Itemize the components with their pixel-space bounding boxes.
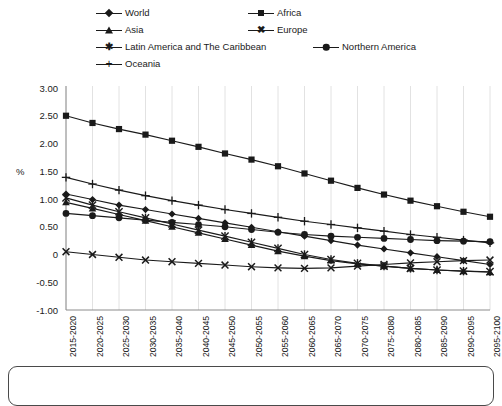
x-axis-tick-12: 2075-2080 <box>387 316 396 357</box>
plot-area: 3.002.502.001.501.000.500-0.50-1.00% <box>0 78 502 318</box>
oceania-marker-icon: + <box>96 58 122 70</box>
world-marker-icon <box>96 7 122 19</box>
x-axis-tick-6: 2045-2050 <box>228 316 237 357</box>
legend-row-1b: Africa <box>248 6 301 20</box>
x-axis-tick-3: 2030-2035 <box>149 316 158 357</box>
x-axis-tick-0: 2015-2020 <box>69 316 78 357</box>
y-axis-tick-4: 1.00 <box>40 194 59 205</box>
legend-item-asia[interactable]: Asia <box>96 24 143 36</box>
y-axis-tick-3: 1.50 <box>40 166 59 177</box>
x-axis-tick-11: 2070-2075 <box>361 316 370 357</box>
x-axis-tick-16: 2095-2100 <box>493 316 502 357</box>
europe-marker-icon: ✖ <box>248 24 274 36</box>
chart-legend: World Africa Asia ✖ <box>96 4 496 74</box>
x-axis-tick-13: 2080-2085 <box>414 316 423 357</box>
legend-row-2: Asia <box>96 23 143 37</box>
northern-america-marker-icon <box>313 41 339 53</box>
legend-item-world[interactable]: World <box>96 7 150 19</box>
latin-america-marker-icon: ✱ <box>96 41 122 53</box>
y-axis-tick-7: -0.50 <box>36 277 58 288</box>
legend-row-4: + Oceania <box>96 57 160 71</box>
x-axis-tick-labels: 2015-20202020-20252025-20302030-20352035… <box>0 305 502 365</box>
legend-item-northern-america[interactable]: Northern America <box>313 41 416 53</box>
legend-item-latin-america[interactable]: ✱ Latin America and The Caribbean <box>96 41 266 53</box>
africa-marker-icon <box>248 7 274 19</box>
y-axis-tick-0: 3.00 <box>40 83 59 94</box>
legend-label-northern-america: Northern America <box>342 41 416 53</box>
asia-marker-icon <box>96 24 122 36</box>
y-axis-tick-1: 2.50 <box>40 110 59 121</box>
x-axis-tick-15: 2090-2095 <box>467 316 476 357</box>
x-axis-tick-7: 2050-2055 <box>255 316 264 357</box>
x-axis-tick-8: 2055-2060 <box>281 316 290 357</box>
y-axis-tick-5: 0.50 <box>40 221 59 232</box>
y-axis-tick-2: 2.00 <box>40 138 59 149</box>
bottom-frame-border <box>8 366 494 406</box>
x-axis-tick-1: 2020-2025 <box>96 316 105 357</box>
x-axis-tick-10: 2065-2070 <box>334 316 343 357</box>
legend-item-africa[interactable]: Africa <box>248 7 301 19</box>
x-axis-tick-4: 2035-2040 <box>175 316 184 357</box>
plot-svg: 3.002.502.001.501.000.500-0.50-1.00% <box>0 78 502 318</box>
legend-row-1: World <box>96 6 150 20</box>
legend-label-latin-america: Latin America and The Caribbean <box>125 41 266 53</box>
legend-label-asia: Asia <box>125 24 143 36</box>
legend-label-world: World <box>125 7 150 19</box>
x-axis-tick-14: 2085-2090 <box>440 316 449 357</box>
y-axis-title: % <box>16 166 25 177</box>
legend-label-europe: Europe <box>277 24 308 36</box>
x-axis-tick-9: 2060-2065 <box>308 316 317 357</box>
y-axis-tick-6: 0 <box>53 249 58 260</box>
legend-label-africa: Africa <box>277 7 301 19</box>
legend-row-2b: ✖ Europe <box>248 23 308 37</box>
legend-row-3b: Northern America <box>313 40 416 54</box>
x-axis-tick-2: 2025-2030 <box>122 316 131 357</box>
legend-item-oceania[interactable]: + Oceania <box>96 58 160 70</box>
legend-row-3: ✱ Latin America and The Caribbean <box>96 40 266 54</box>
legend-item-europe[interactable]: ✖ Europe <box>248 24 308 36</box>
legend-label-oceania: Oceania <box>125 58 160 70</box>
x-axis-tick-5: 2040-2045 <box>202 316 211 357</box>
